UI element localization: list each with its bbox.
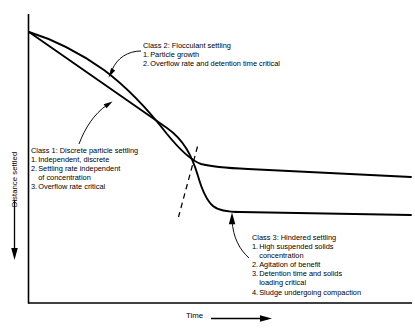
class3-item-1: 1.High suspended solids [252, 242, 361, 251]
class3-item-4-text: Sludge undergoing compaction [259, 288, 361, 297]
class2-heading: Class 2: Flocculant settling [143, 41, 280, 50]
class1-annotation: Class 1: Discrete particle settling 1.In… [31, 146, 138, 191]
class2-leader-line [109, 51, 142, 78]
class2-item-2-text: Overflow rate and detention time critica… [150, 59, 280, 68]
class3-item-3: 3.Detention time and solids [252, 269, 361, 278]
class1-item-2-text: Settling rate independent [38, 164, 120, 173]
class1-heading: Class 1: Discrete particle settling [31, 146, 138, 155]
class3-item-4: 4.Sludge undergoing compaction [252, 288, 361, 297]
class1-item-3: 3.Overflow rate critical [31, 182, 138, 191]
class1-item-2-continuation: of concentration [31, 173, 138, 182]
class3-item-2: 2.Agitation of benefit [252, 260, 361, 269]
class2-item-2: 2.Overflow rate and detention time criti… [143, 59, 280, 68]
class3-item-2-text: Agitation of benefit [259, 260, 320, 269]
class3-leader-line [229, 213, 249, 259]
class2-item-1-text: Particle growth [150, 50, 199, 59]
class3-item-3-text: Detention time and solids [259, 269, 342, 278]
x-axis-label: Time [186, 311, 203, 320]
settling-classes-figure: Class 2: Flocculant settling 1.Particle … [0, 0, 415, 332]
class1-item-1-text: Independent, discrete [38, 155, 109, 164]
class3-item-1-continuation: concentration [252, 251, 361, 260]
class3-item-1-text: High suspended solids [259, 242, 333, 251]
class1-leader-line [79, 102, 113, 145]
y-axis-label: Distance settled [10, 135, 19, 225]
class1-item-3-text: Overflow rate critical [38, 182, 105, 191]
x-axis-arrow-icon [211, 315, 272, 322]
class3-heading: Class 3: Hindered settling [252, 233, 361, 242]
class3-item-3-continuation: loading critical [252, 278, 361, 287]
class3-annotation: Class 3: Hindered settling 1.High suspen… [252, 233, 361, 297]
class1-item-1: 1.Independent, discrete [31, 155, 138, 164]
class1-item-2: 2.Settling rate independent [31, 164, 138, 173]
class2-annotation: Class 2: Flocculant settling 1.Particle … [143, 41, 280, 68]
class2-item-1: 1.Particle growth [143, 50, 280, 59]
